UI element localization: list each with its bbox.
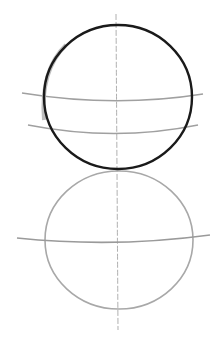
lower-horizontal-line bbox=[17, 235, 210, 242]
center-vertical-line bbox=[116, 14, 118, 330]
head-sketch-canvas bbox=[0, 0, 224, 342]
top-circle bbox=[44, 25, 192, 169]
top-circle-shading bbox=[43, 45, 66, 120]
upper-horizontal-line-1 bbox=[22, 93, 203, 101]
